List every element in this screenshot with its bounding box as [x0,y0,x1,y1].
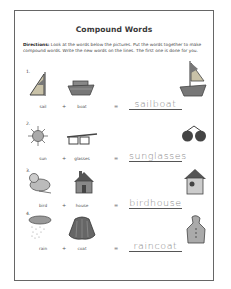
plus-sign: + [62,202,66,208]
directions: Directions: Look at the words below the … [23,42,205,53]
house-icon [73,170,95,194]
raincoat-icon [185,215,207,245]
word-2: coat [67,246,97,251]
plus-sign: + [62,155,66,161]
equals-sign: = [114,245,118,251]
exercise-row-1: 1. sail + boat = sailboat [15,69,213,119]
page-title: Compound Words [15,25,213,34]
boat-icon [67,79,95,97]
exercise-row-2: 2. sun + glasses = sunglasses [15,121,213,171]
word-1: sun [28,156,58,161]
sail-icon [27,71,49,97]
equals-sign: = [114,103,118,109]
plus-sign: + [62,245,66,251]
equals-sign: = [114,202,118,208]
word-1: sail [28,104,58,109]
bird-icon [27,172,53,194]
answer-line[interactable]: birdhouse [129,198,182,209]
answer-line[interactable]: sailboat [129,99,182,110]
equals-sign: = [114,155,118,161]
word-2: glasses [67,156,97,161]
answer-line[interactable]: sunglasses [129,151,182,162]
glasses-icon [65,133,99,147]
sun-icon [27,125,49,147]
answer-line[interactable]: raincoat [129,241,182,252]
birdhouse-icon [183,168,207,196]
directions-text: Look at the words below the pictures. Pu… [23,42,201,53]
word-1: bird [28,203,58,208]
plus-sign: + [62,103,66,109]
rain-cloud-icon [27,215,53,241]
exercise-row-4: 4. rain + coat = raincoat [15,211,213,261]
word-2: boat [67,104,97,109]
sunglasses-icon [181,125,207,143]
word-1: rain [28,246,58,251]
coat-icon [67,215,97,241]
directions-label: Directions: [23,42,49,47]
worksheet-frame: Compound Words Directions: Look at the w… [14,10,214,281]
word-2: house [67,203,97,208]
sailboat-icon [178,59,208,99]
